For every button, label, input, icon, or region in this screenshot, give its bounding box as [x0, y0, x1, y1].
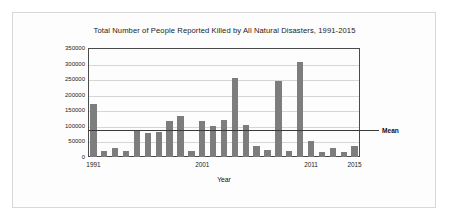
bar — [156, 132, 162, 157]
mean-line — [88, 130, 379, 131]
y-axis-tick-label: 150000 — [25, 107, 85, 113]
bar — [101, 151, 107, 157]
bar — [134, 131, 140, 157]
bar — [188, 151, 194, 157]
x-axis-tick-label: 1991 — [86, 161, 100, 168]
bar-series — [88, 48, 360, 157]
x-axis-tick-label: 2001 — [195, 161, 209, 168]
bar — [275, 81, 281, 157]
y-axis-tick-label: 0 — [25, 154, 85, 160]
bar — [330, 148, 336, 157]
y-axis-tick-label: 200000 — [25, 92, 85, 98]
y-axis-tick-label: 300000 — [25, 61, 85, 67]
bar — [253, 146, 259, 157]
x-axis-tick-label: 2011 — [304, 161, 318, 168]
bar — [319, 152, 325, 157]
x-axis-title: Year — [88, 176, 360, 183]
y-axis-tick-label: 100000 — [25, 123, 85, 129]
bar — [297, 62, 303, 157]
bar — [221, 120, 227, 157]
bar — [341, 152, 347, 157]
bar — [232, 78, 238, 157]
bar — [145, 133, 151, 157]
bar — [166, 121, 172, 157]
mean-label: Mean — [382, 126, 399, 133]
bar — [286, 151, 292, 157]
bar — [112, 148, 118, 157]
chart-figure: Total Number of People Reported Killed b… — [0, 0, 449, 221]
y-axis-tick-label: 50000 — [25, 138, 85, 144]
y-axis-tick-label: 250000 — [25, 76, 85, 82]
bar — [177, 116, 183, 157]
bar — [351, 146, 357, 157]
bar — [308, 141, 314, 157]
bar — [199, 121, 205, 157]
bar — [264, 150, 270, 157]
y-axis-tick-label: 350000 — [25, 45, 85, 51]
x-axis-tick-label: 2015 — [347, 161, 361, 168]
bar — [123, 151, 129, 157]
chart-title: Total Number of People Reported Killed b… — [0, 26, 449, 35]
